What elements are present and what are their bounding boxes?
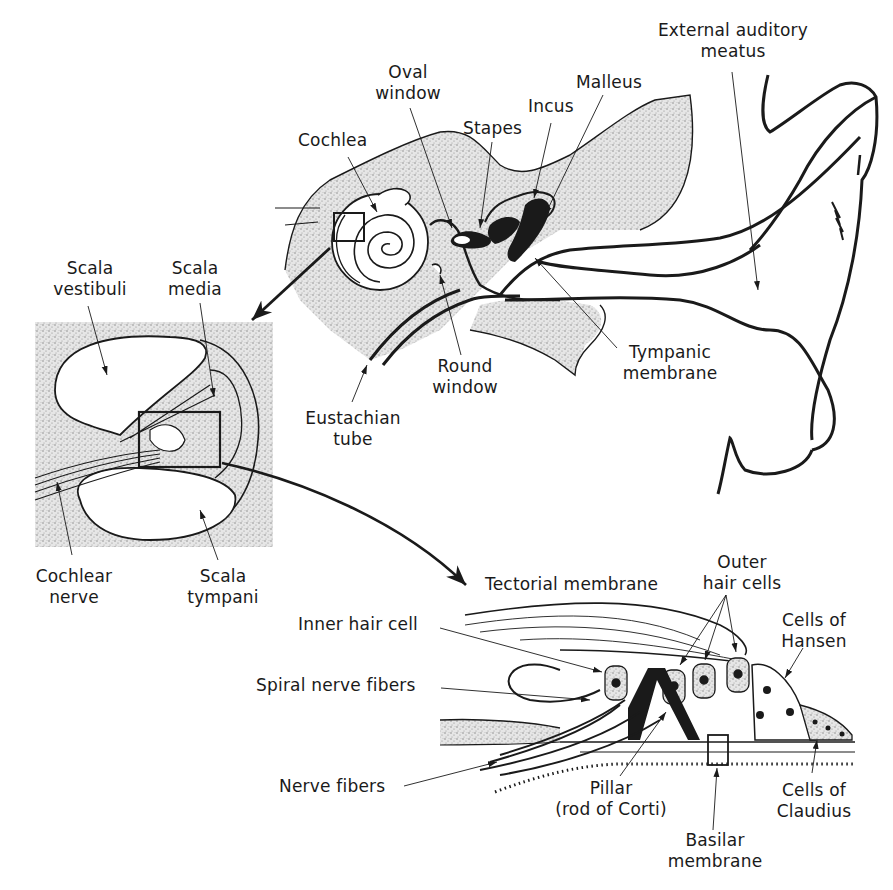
label-basilar-membrane: Basilar membrane [660, 830, 770, 872]
label-spiral-nerve-fibers: Spiral nerve fibers [256, 675, 416, 696]
pinna [718, 75, 877, 494]
label-oval-window: Oval window [363, 62, 453, 104]
label-pillar: Pillar (rod of Corti) [547, 778, 675, 820]
label-eustachian-tube: Eustachian tube [297, 408, 409, 450]
diagram-artwork [0, 0, 893, 890]
label-tympanic-membrane: Tympanic membrane [615, 342, 725, 384]
label-inner-hair-cell: Inner hair cell [298, 614, 418, 635]
label-scala-media: Scala media [160, 258, 230, 300]
label-cochlea: Cochlea [298, 130, 367, 151]
label-outer-hair-cells: Outer hair cells [693, 552, 791, 594]
label-incus: Incus [528, 96, 574, 117]
label-nerve-fibers: Nerve fibers [279, 776, 385, 797]
hansen-cells [752, 664, 815, 740]
label-cochlear-nerve: Cochlear nerve [28, 566, 120, 608]
label-scala-vestibuli: Scala vestibuli [45, 258, 135, 300]
basilar-zoom-box [708, 735, 728, 765]
label-malleus: Malleus [576, 72, 642, 93]
pillar-shape [628, 668, 700, 740]
tectorial-membrane-shape [465, 603, 746, 662]
label-tectorial-membrane: Tectorial membrane [485, 574, 658, 595]
label-external-auditory-meatus: External auditory meatus [628, 20, 838, 62]
label-cells-of-hansen: Cells of Hansen [775, 610, 853, 652]
label-round-window: Round window [424, 356, 506, 398]
label-stapes: Stapes [463, 118, 522, 139]
ear-anatomy-diagram: External auditory meatus Oval window Mal… [0, 0, 893, 890]
label-scala-tympani: Scala tympani [180, 566, 266, 608]
label-cells-of-claudius: Cells of Claudius [770, 780, 858, 822]
